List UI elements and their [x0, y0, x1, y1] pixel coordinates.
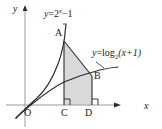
exp-tail: −1	[62, 8, 73, 19]
logarithm-leader-line	[96, 62, 104, 68]
point-label-b: B	[94, 71, 101, 81]
log-arg: (x+1)	[118, 47, 141, 58]
logarithm-equation-label: y=log2(x+1)	[92, 48, 141, 61]
exponential-equation-label: y=2x−1	[44, 8, 73, 19]
exponential-curve	[16, 24, 66, 118]
point-label-c: C	[61, 108, 68, 118]
log-fn: log	[102, 47, 115, 58]
right-angle-mark-d	[92, 99, 98, 105]
point-label-a: A	[55, 28, 62, 38]
x-axis-label: x	[144, 101, 148, 111]
point-label-d: D	[85, 108, 92, 118]
x-axis-arrow	[114, 102, 121, 107]
origin-label: O	[24, 108, 31, 118]
y-axis-label: y	[13, 4, 17, 14]
y-axis-arrow	[23, 5, 28, 11]
math-figure: y x O A B C D y=2x−1 y=log2(x+1)	[0, 0, 162, 129]
